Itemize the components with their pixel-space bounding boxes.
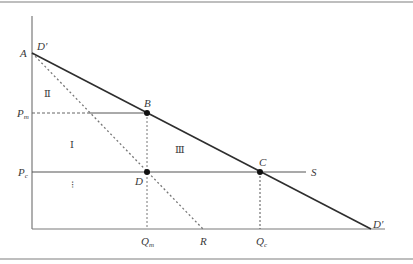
label-pm: Pm [16,107,29,121]
marginal-revenue-line [32,53,203,229]
point-c-marker [257,169,263,175]
region-1-label: Ⅰ [70,139,74,150]
label-qc: Qc [256,235,268,249]
label-qm: Qm [141,235,154,249]
label-r: R [199,235,207,247]
label-pc: Pc [17,166,29,180]
label-a: A [19,47,27,59]
label-c: C [259,156,267,168]
region-3-label: Ⅲ [175,144,185,155]
point-b-marker [144,110,150,116]
label-s: S [311,166,317,178]
region-4-marker: ⁝ [71,179,74,190]
point-d-marker [144,169,150,175]
label-b: B [144,97,151,109]
label-demand-start: D′ [36,40,48,52]
demand-line [32,53,371,229]
label-d: D [134,175,143,187]
region-2-label: Ⅱ [44,88,51,99]
label-demand-end: D′ [372,218,384,230]
monopoly-diagram: A D′ B D C S D′ Pm Pc Qm R Qc Ⅱ Ⅰ Ⅲ ⁝ [0,0,413,264]
